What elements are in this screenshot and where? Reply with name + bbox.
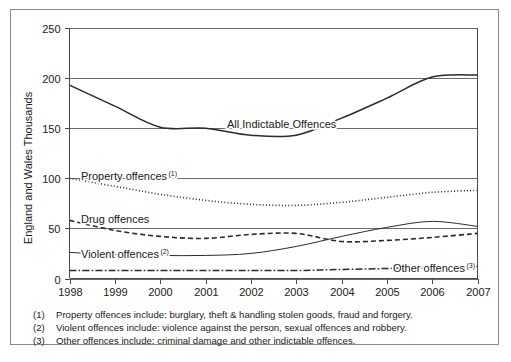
footnote-text: Property offences include: burglary, the… [56,308,493,321]
footnote-marker: (3) [33,334,56,347]
x-tick-label-2007: 2007 [466,286,490,298]
y-tick-label-150: 150 [42,123,60,135]
series-label-violent-offences: Violent offences(2) [81,248,169,260]
gridlines-group [70,29,478,280]
footnotes-block: (1) Property offences include: burglary,… [33,308,493,347]
x-tick-label-2006: 2006 [420,286,444,298]
series-line-property-offences [70,178,478,205]
x-tick-label-1999: 1999 [103,286,127,298]
y-axis-title: England and Wales Thousands [22,91,34,244]
y-tick-label-0: 0 [54,274,60,286]
footnote-row: (3) Other offences include: criminal dam… [33,334,493,347]
y-tick-labels-group: 050100150200250 [42,23,60,286]
figure-frame: England and Wales Thousands 050100150200… [10,9,499,345]
y-tick-label-250: 250 [42,23,60,35]
x-tick-labels-group: 1998199920002001200220032004200520062007 [58,286,490,298]
crime-statistics-line-chart: England and Wales Thousands 050100150200… [11,10,498,344]
footnote-row: (2) Violent offences include: violence a… [33,321,493,334]
series-label-drug-offences: Drug offences [81,213,150,225]
y-tick-marks-group [65,29,70,280]
series-label-property-offences: Property offences(1) [81,170,177,182]
y-tick-label-200: 200 [42,73,60,85]
x-tick-label-2002: 2002 [239,286,263,298]
footnote-text: Violent offences include: violence again… [56,321,493,334]
y-tick-label-100: 100 [42,173,60,185]
footnote-marker: (1) [33,308,56,321]
x-tick-label-2005: 2005 [375,286,399,298]
x-tick-label-2000: 2000 [148,286,172,298]
series-annotations-group: All Indictable OffencesAll Indictable Of… [81,118,475,274]
x-tick-label-2003: 2003 [284,286,308,298]
y-axis-title-group: England and Wales Thousands [22,91,34,244]
series-label-other-offences: Other offences(3) [393,262,475,274]
x-tick-label-1998: 1998 [58,286,82,298]
x-tick-label-2001: 2001 [194,286,218,298]
footnote-marker: (2) [33,321,56,334]
x-tick-label-2004: 2004 [330,286,354,298]
footnote-row: (1) Property offences include: burglary,… [33,308,493,321]
y-tick-label-50: 50 [48,223,60,235]
footnote-text: Other offences include: criminal damage … [56,334,493,347]
series-label-all-indictable-offences: All Indictable Offences [227,118,337,130]
